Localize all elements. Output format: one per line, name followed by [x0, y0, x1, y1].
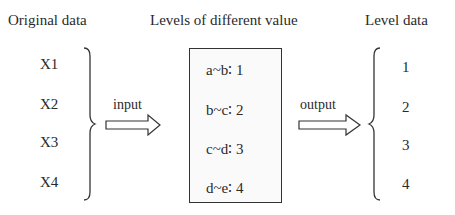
output-arrow-icon: [299, 115, 360, 135]
diagram-shapes: [0, 0, 455, 215]
right-brace-icon: [84, 48, 95, 200]
left-brace-icon: [369, 48, 380, 200]
input-arrow-icon: [106, 115, 160, 135]
